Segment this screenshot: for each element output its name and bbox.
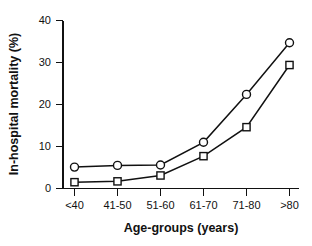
y-tick-labels: 0 10 20 30 40 (39, 14, 51, 194)
series-line-circle (75, 43, 290, 167)
y-tick-label-0: 0 (45, 182, 51, 194)
y-axis-title: In-hospital mortality (%) (7, 33, 21, 175)
y-tick-label-30: 30 (39, 56, 51, 68)
x-tick-label-51-60: 51-60 (146, 199, 174, 211)
data-point (243, 90, 251, 98)
data-point (114, 161, 122, 169)
x-tick-labels: <40 41-50 51-60 61-70 71-80 >80 (65, 199, 299, 211)
y-tick-marks (56, 21, 63, 189)
data-point (157, 161, 165, 169)
data-point (114, 178, 121, 185)
line-chart: 0 10 20 30 40 <40 41-50 51-60 61-70 71-8… (0, 0, 312, 246)
data-point (200, 138, 208, 146)
x-tick-label-gt80: >80 (280, 199, 299, 211)
x-tick-label-71-80: 71-80 (232, 199, 260, 211)
series-markers-circle (71, 39, 294, 171)
data-point (71, 179, 78, 186)
chart-figure: 0 10 20 30 40 <40 41-50 51-60 61-70 71-8… (0, 0, 312, 246)
y-tick-label-10: 10 (39, 140, 51, 152)
data-point (157, 172, 164, 179)
series-markers-square (71, 61, 293, 185)
y-tick-label-40: 40 (39, 14, 51, 26)
x-tick-marks (75, 189, 290, 197)
data-point (243, 124, 250, 131)
y-tick-label-20: 20 (39, 98, 51, 110)
x-tick-label-41-50: 41-50 (103, 199, 131, 211)
x-tick-label-lt40: <40 (65, 199, 84, 211)
x-axis-title: Age-groups (years) (124, 221, 239, 235)
data-point (200, 153, 207, 160)
x-tick-label-61-70: 61-70 (189, 199, 217, 211)
data-point (71, 163, 79, 171)
data-point (286, 61, 293, 68)
data-point (286, 39, 294, 47)
